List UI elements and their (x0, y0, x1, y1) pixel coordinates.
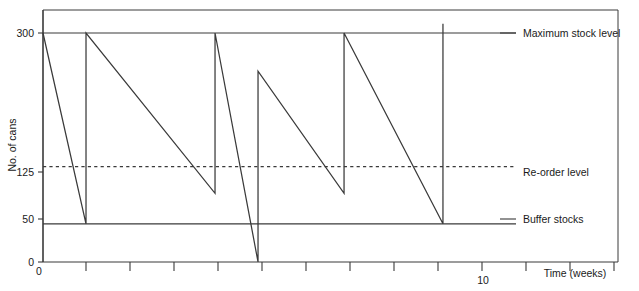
y-tick-label-125: 125 (16, 166, 34, 178)
y-tick-label-300: 300 (16, 27, 34, 39)
x-axis-title: Time (weeks) (544, 267, 607, 279)
buffer-stocks-label: Buffer stocks (523, 213, 584, 225)
x-tick-label-0: 0 (36, 265, 42, 277)
re-order-level-label: Re-order level (523, 166, 589, 178)
y-tick-label-50: 50 (22, 213, 34, 225)
x-axis-ticks (86, 262, 614, 271)
y-tick-label-0: 0 (28, 256, 34, 268)
stock-level-series (43, 24, 443, 262)
y-axis-ticks (38, 33, 43, 262)
x-tick-label-10: 10 (477, 274, 489, 286)
y-axis-title: No. of cans (6, 118, 18, 171)
annotation-leaders (500, 33, 516, 219)
stock-control-chart: No. of cans Time (weeks) 300 125 50 0 0 … (0, 0, 639, 291)
chart-canvas: No. of cans Time (weeks) 300 125 50 0 0 … (0, 0, 639, 291)
maximum-stock-level-label: Maximum stock level (523, 27, 620, 39)
